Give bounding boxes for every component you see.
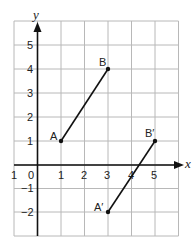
y-tick-label: 4 xyxy=(27,63,33,75)
point-A xyxy=(59,139,63,143)
y-tick-label: −1 xyxy=(21,182,34,194)
x-tick-label: 1 xyxy=(58,169,64,181)
y-tick-label: −2 xyxy=(21,206,34,218)
x-tick-label: 1 xyxy=(11,169,17,181)
point-A-prime xyxy=(106,210,110,214)
x-tick-label: 3 xyxy=(104,169,110,181)
x-axis-label: x xyxy=(184,156,191,171)
y-tick-label: 2 xyxy=(27,111,33,123)
y-tick-label: 5 xyxy=(27,39,33,51)
point-B-prime xyxy=(153,139,157,143)
point-A-prime-label: A′ xyxy=(94,201,103,213)
y-axis-label: y xyxy=(31,7,39,22)
x-tick-label: 2 xyxy=(81,169,87,181)
coordinate-plane: y x 1 0 1 2 3 4 5 5 4 3 2 1 −1 −2 A B A′… xyxy=(0,0,192,245)
origin-label: 0 xyxy=(28,169,34,181)
y-axis-arrow-icon xyxy=(34,22,42,32)
y-tick-label: 3 xyxy=(27,87,33,99)
point-B-label: B xyxy=(99,56,106,68)
x-tick-label: 5 xyxy=(151,169,157,181)
y-tick-label: 1 xyxy=(27,135,33,147)
point-A-label: A xyxy=(50,130,58,142)
point-B-prime-label: B′ xyxy=(145,127,154,139)
point-B xyxy=(106,67,110,71)
